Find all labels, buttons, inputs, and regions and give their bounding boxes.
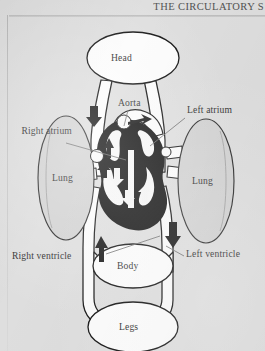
organ-label-head: Head — [111, 53, 132, 64]
callout-label-aorta: Aorta — [118, 98, 141, 109]
organ-head — [87, 32, 179, 84]
callout-label-right-atrium: Right atrium — [16, 126, 72, 137]
organ-label-lung-left: Lung — [52, 173, 73, 184]
circulatory-system-diagram — [0, 0, 265, 351]
organ-label-body: Body — [117, 261, 138, 272]
callout-label-left-ventricle: Left ventricle — [186, 249, 240, 260]
organ-label-lung-right: Lung — [192, 176, 213, 187]
callout-label-right-ventricle: Right ventricle — [12, 251, 72, 262]
callout-label-left-atrium: Left atrium — [187, 105, 232, 116]
organ-label-legs: Legs — [119, 322, 138, 333]
figure-page: THE CIRCULATORY S — [0, 0, 265, 351]
heart-valve-right — [161, 147, 171, 157]
